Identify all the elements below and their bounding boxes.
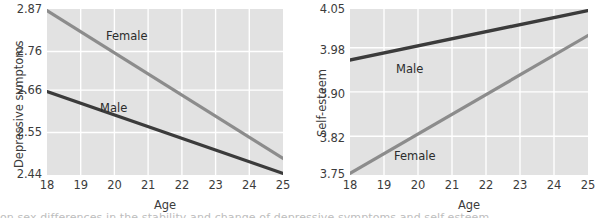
series-line-female: [350, 36, 588, 174]
x-tick-label: 20: [101, 180, 127, 192]
x-tick-label: 22: [169, 180, 195, 192]
x-tick-label: 18: [34, 180, 60, 192]
panel-self-esteem: Self-esteem 4.05 3.98 3.90 3.82 3.75: [301, 0, 602, 218]
y-axis-label-left: Depressive symptoms: [12, 40, 26, 168]
caption-bleed-text: on sex differences in the stability and …: [0, 211, 602, 218]
y-tick-label: 4.05: [301, 4, 345, 16]
series-line-female: [47, 11, 283, 159]
y-tick-label: 2.55: [0, 127, 42, 139]
y-axis-label-right: Self-esteem: [315, 69, 329, 137]
x-tick-label: 18: [337, 180, 363, 192]
plot-svg-self-esteem: [350, 9, 588, 175]
x-tick-label: 24: [236, 180, 262, 192]
x-axis-label-left: Age: [105, 198, 225, 212]
y-tick-label: 2.66: [0, 85, 42, 97]
x-tick-label: 21: [439, 180, 465, 192]
x-tick-label: 20: [405, 180, 431, 192]
series-line-male: [350, 11, 588, 60]
y-tick-label: 2.87: [0, 4, 42, 16]
x-tick-label: 19: [371, 180, 397, 192]
x-tick-label: 23: [507, 180, 533, 192]
plot-area-self-esteem: Male Female: [350, 9, 588, 175]
y-tick-label: 3.82: [301, 133, 345, 145]
figure-two-panel-interaction-plots: Depressive symptoms 2.87 2.76 2.66 2.55 …: [0, 0, 602, 218]
y-tick-label: 3.90: [301, 89, 345, 101]
y-tick-label: 2.44: [0, 169, 42, 181]
series-label-female: Female: [106, 31, 148, 43]
plot-svg-depressive-symptoms: [47, 9, 283, 175]
series-label-male: Male: [100, 103, 127, 115]
x-tick-label: 25: [575, 180, 601, 192]
x-tick-label: 21: [135, 180, 161, 192]
y-tick-label: 2.76: [0, 46, 42, 58]
x-tick-label: 24: [541, 180, 567, 192]
x-tick-label: 23: [203, 180, 229, 192]
y-tick-label: 3.75: [301, 169, 345, 181]
series-label-female: Female: [394, 151, 436, 163]
y-tick-label: 3.98: [301, 45, 345, 57]
gridlines-horizontal: [350, 48, 588, 137]
panel-depressive-symptoms: Depressive symptoms 2.87 2.76 2.66 2.55 …: [0, 0, 301, 218]
x-tick-label: 22: [473, 180, 499, 192]
plot-area-depressive-symptoms: Female Male: [47, 9, 283, 175]
x-tick-label: 19: [68, 180, 94, 192]
x-tick-label: 25: [270, 180, 296, 192]
x-axis-label-right: Age: [409, 198, 529, 212]
series-label-male: Male: [396, 64, 423, 76]
gridlines-horizontal: [47, 52, 283, 133]
